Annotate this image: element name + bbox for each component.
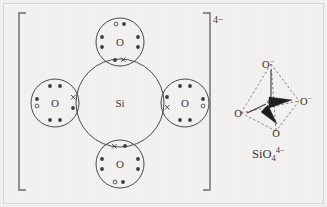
tetrahedral-model-group: Si O− O− O O SiO44− xyxy=(234,57,312,163)
electron-dot xyxy=(71,106,75,110)
tetra-edge-top-right xyxy=(271,64,299,101)
silicon-label: Si xyxy=(115,97,124,109)
tetra-oxygen-front-label: O xyxy=(272,128,280,139)
electron-dot xyxy=(123,144,127,148)
electron-dot xyxy=(188,118,192,122)
electron-dot xyxy=(178,118,182,122)
electron-dot xyxy=(188,84,192,88)
electron-dot xyxy=(35,97,39,101)
oxygen-top-label: O xyxy=(116,36,124,48)
electron-dot xyxy=(178,84,182,88)
tetra-oxygen-top-label: O− xyxy=(262,57,274,70)
electron-dot xyxy=(58,84,62,88)
electron-dot xyxy=(122,22,126,26)
tetra-silicon-label: Si xyxy=(267,98,276,109)
oxygen-right-group: O xyxy=(161,79,209,127)
electron-dot xyxy=(136,157,140,161)
ion-charge-label: 4− xyxy=(213,14,224,25)
oxygen-left-label: O xyxy=(51,97,59,109)
electron-dot xyxy=(100,35,104,39)
electron-dot xyxy=(100,157,104,161)
electron-dot xyxy=(100,45,104,49)
electron-dot xyxy=(100,167,104,171)
electron-dot xyxy=(136,167,140,171)
electron-open-circle xyxy=(114,22,118,26)
oxygen-left-group: O xyxy=(31,79,79,127)
silicate-ion-figure: 4− Si O xyxy=(0,0,327,207)
electron-cross xyxy=(71,95,76,100)
diagram-canvas: 4− Si O xyxy=(0,0,327,207)
electron-dot xyxy=(58,118,62,122)
electron-open-circle xyxy=(113,180,117,184)
electron-dot xyxy=(48,84,52,88)
electron-dot xyxy=(48,118,52,122)
electron-dot xyxy=(136,35,140,39)
oxygen-bottom-label: O xyxy=(116,158,124,170)
tetra-edge-right-front xyxy=(276,101,299,131)
electron-cross xyxy=(165,105,170,110)
chemical-formula-label: SiO44− xyxy=(252,145,285,163)
electron-dot xyxy=(121,180,125,184)
lewis-dot-structure-group: 4− Si O xyxy=(19,13,224,190)
electron-dot xyxy=(136,45,140,49)
electron-open-circle xyxy=(35,104,39,108)
electron-dot xyxy=(165,95,169,99)
electron-dot xyxy=(201,97,205,101)
electron-dot xyxy=(113,58,117,62)
tetra-oxygen-left-label: O xyxy=(234,108,242,119)
electron-open-circle xyxy=(201,104,205,108)
bracket-left xyxy=(19,13,26,190)
tetra-oxygen-right-label: O− xyxy=(300,94,312,107)
oxygen-right-label: O xyxy=(181,97,189,109)
